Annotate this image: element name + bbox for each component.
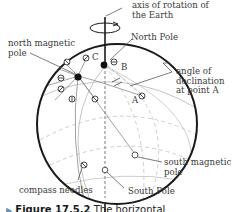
globe-outline [37, 44, 197, 204]
declination-label-line3: at point A [176, 86, 224, 96]
earth-magnetic-field-diagram [0, 0, 240, 212]
compass-needle-icon [64, 59, 70, 65]
compass-needles-label: compass needles [19, 186, 93, 196]
north-magnetic-label-line2: pole [8, 49, 75, 59]
declination-label: angle of declination at point A [176, 67, 224, 96]
north-magnetic-pole-label: north magnetic pole [8, 39, 75, 58]
south-pole-label: South Pole [128, 187, 175, 197]
north-pole-label: North Pole [131, 33, 178, 43]
compass-needle-icon [58, 75, 64, 81]
compass-needle-icon [111, 59, 117, 65]
figure-caption: ▶ Figure 17.5.2 The horizontal [6, 204, 165, 212]
point-a-label: A [132, 96, 138, 106]
north-magnetic-pole-dot [74, 73, 81, 80]
point-c-label: C [92, 53, 99, 63]
caption-text: The horizontal [94, 204, 166, 212]
compass-needle-icon [69, 96, 75, 102]
south-magnetic-pole-label: south magnetic pole [164, 158, 231, 177]
axis-label: axis of rotation of the Earth [132, 1, 209, 20]
compass-needle-icon [139, 93, 145, 99]
caption-figure-number: Figure 17.5.2 [15, 204, 90, 212]
compass-needle-icon [83, 55, 89, 61]
south-magnetic-label-line2: pole [164, 168, 231, 178]
compass-needle-icon [92, 96, 98, 102]
caption-arrow-icon: ▶ [6, 206, 12, 212]
point-b-label: B [121, 63, 127, 73]
axis-label-line2: the Earth [132, 11, 209, 21]
south-pole-marker [102, 167, 108, 173]
north-pole-dot [101, 62, 108, 69]
compass-needle-icon [58, 86, 64, 92]
south-magnetic-pole-marker [132, 152, 138, 158]
compass-needle-icon [81, 162, 87, 168]
